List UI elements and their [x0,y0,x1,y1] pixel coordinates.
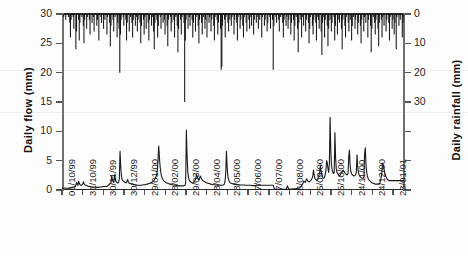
x-tick-15 [372,190,373,195]
left-tick-label-30: 30 [22,7,52,19]
right-tick-label-30: 30 [414,95,444,107]
right-axis-title: Daily rainfall (mm) [450,30,462,190]
right-tick-label-10: 10 [414,36,444,48]
right-tick-label-20: 20 [414,66,444,78]
x-tick-13 [330,190,331,195]
right-tick-0 [405,13,411,14]
x-tick-14 [351,190,352,195]
x-tick-7 [206,190,207,195]
left-axis-title: Daily flow (mm) [22,30,34,190]
left-tick-label-10: 10 [22,124,52,136]
right-tick-40 [405,131,411,132]
x-tick-4 [144,190,145,195]
left-tick-label-5: 5 [22,154,52,166]
chart-figure: Daily flow (mm) Daily rainfall (mm) 0510… [0,0,468,256]
x-tick-16 [392,190,393,195]
x-tick-1 [82,190,83,195]
left-tick-label-0: 0 [22,183,52,195]
right-tick-label-0: 0 [414,7,444,19]
x-tick-0 [61,190,62,195]
flow-line [62,117,404,189]
x-tick-8 [227,190,228,195]
left-tick-label-25: 25 [22,36,52,48]
right-tick-30 [405,101,411,102]
x-tick-6 [185,190,186,195]
plot-area [62,14,404,190]
x-tick-12 [310,190,311,195]
rainfall-bars [64,14,404,102]
left-tick-label-20: 20 [22,66,52,78]
right-tick-10 [405,43,411,44]
x-tick-9 [247,190,248,195]
right-tick-20 [405,72,411,73]
x-tick-11 [289,190,290,195]
x-tick-5 [165,190,166,195]
x-tick-2 [103,190,104,195]
x-tick-10 [268,190,269,195]
left-tick-label-15: 15 [22,95,52,107]
x-tick-3 [123,190,124,195]
